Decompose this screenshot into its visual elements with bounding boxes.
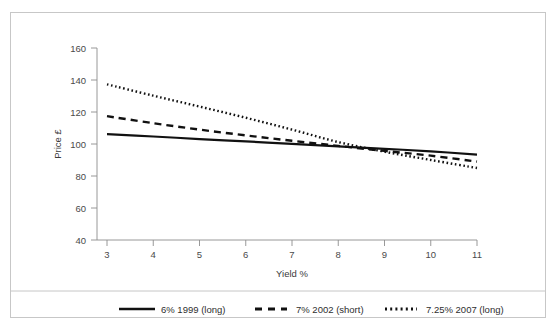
legend-item-7pct-2002-short[interactable]: 7% 2002 (short)	[255, 304, 364, 315]
x-tick-label-8: 8	[336, 249, 341, 260]
x-tick-label-10: 10	[425, 249, 436, 260]
chart-legend: 6% 1999 (long) 7% 2002 (short) 7.25% 200…	[119, 304, 504, 315]
legend-item-725pct-2007-long[interactable]: 7.25% 2007 (long)	[385, 304, 504, 315]
x-tick-label-3: 3	[104, 249, 109, 260]
x-tick-label-5: 5	[197, 249, 202, 260]
series-line-6pct-1999-long	[107, 134, 477, 154]
x-tick-label-11: 11	[472, 249, 482, 260]
legend-label-0: 6% 1999 (long)	[161, 304, 225, 315]
x-tick-label-7: 7	[289, 249, 294, 260]
price-yield-line-chart: 160 140 120 100 80 60 40 3 4 5 6 7 8 9 1…	[0, 0, 557, 332]
y-tick-label-40: 40	[75, 235, 86, 246]
x-axis-title: Yield %	[276, 268, 308, 279]
x-axis-ticks	[107, 240, 477, 246]
y-tick-label-80: 80	[75, 171, 86, 182]
y-tick-label-60: 60	[75, 203, 86, 214]
y-tick-label-100: 100	[70, 139, 86, 150]
y-tick-label-140: 140	[70, 75, 86, 86]
x-tick-label-4: 4	[151, 249, 156, 260]
chart-figure: 160 140 120 100 80 60 40 3 4 5 6 7 8 9 1…	[0, 0, 557, 332]
y-axis-title: Price £	[52, 129, 63, 159]
x-tick-label-9: 9	[382, 249, 387, 260]
legend-item-6pct-1999-long[interactable]: 6% 1999 (long)	[119, 304, 225, 315]
x-tick-label-6: 6	[243, 249, 248, 260]
series-line-7pct-2002-short	[107, 116, 477, 161]
legend-label-2: 7.25% 2007 (long)	[426, 304, 504, 315]
y-tick-label-120: 120	[70, 107, 86, 118]
legend-label-1: 7% 2002 (short)	[296, 304, 364, 315]
y-tick-label-160: 160	[70, 43, 86, 54]
y-axis-ticks	[91, 48, 97, 240]
